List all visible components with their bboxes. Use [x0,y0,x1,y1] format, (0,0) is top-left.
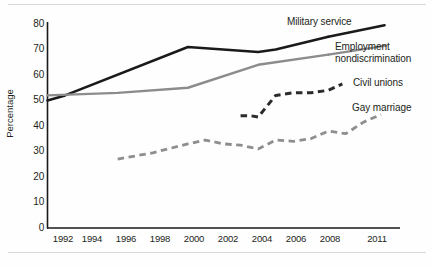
series-line-civil-unions [241,84,343,117]
series-label-employment-nondiscrimination: Employmentnondiscrimination [335,41,411,64]
series-label-civil-unions: Civil unions [353,77,403,89]
series-line-gay-marriage [118,115,381,160]
series-label-military-service: Military service [287,16,352,28]
series-line-employment-nondiscrimination [48,55,329,96]
series-label-gay-marriage: Gay marriage [352,102,411,114]
chart-figure: Percentage 80 70 60 50 40 30 20 10 0 199… [0,0,433,268]
series-line-military-service [48,37,329,101]
